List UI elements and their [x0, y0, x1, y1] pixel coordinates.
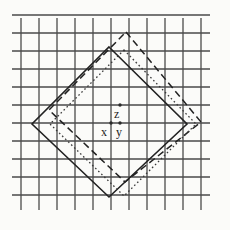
point-x-label: x	[101, 126, 107, 138]
point-x-dot	[109, 121, 112, 124]
geometry-figure: zxy	[0, 0, 230, 230]
point-y-label: y	[116, 126, 122, 138]
grid-lines	[12, 15, 210, 210]
point-z-label: z	[114, 108, 119, 120]
